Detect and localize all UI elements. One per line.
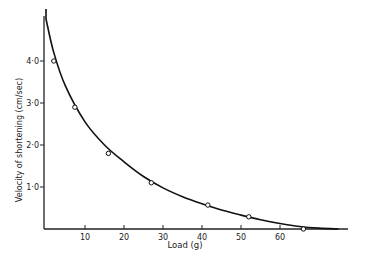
x-tick: 60: [275, 225, 285, 242]
y-tick: 2·0: [26, 141, 44, 150]
y-ticks: 1·02·03·04·0: [26, 57, 44, 192]
x-tick-label: 10: [80, 233, 90, 242]
data-point: [73, 105, 77, 109]
data-point: [149, 181, 153, 185]
chart: 102030405060 1·02·03·04·0 Load (g) Veloc…: [0, 0, 369, 265]
x-tick: 10: [80, 225, 90, 242]
data-point: [52, 59, 56, 63]
x-axis-label: Load (g): [167, 240, 202, 250]
data-point: [247, 215, 251, 219]
x-tick: 20: [119, 225, 129, 242]
y-tick: 3·0: [26, 99, 44, 108]
y-tick: 1·0: [26, 183, 44, 192]
x-tick-label: 20: [119, 233, 129, 242]
data-point: [301, 227, 305, 231]
axes: [44, 16, 348, 229]
x-tick-label: 50: [236, 233, 246, 242]
y-tick-label: 1·0: [26, 183, 39, 192]
data-points: [52, 59, 306, 231]
data-point: [206, 203, 210, 207]
y-axis-label: Velocity of shortening (cm/sec): [15, 78, 24, 202]
y-tick: 4·0: [26, 57, 44, 66]
data-point: [106, 151, 110, 155]
y-tick-label: 3·0: [26, 99, 39, 108]
y-tick-label: 2·0: [26, 141, 39, 150]
x-tick: 50: [236, 225, 246, 242]
x-tick-label: 60: [275, 233, 285, 242]
fitted-curve: [46, 9, 339, 229]
y-tick-label: 4·0: [26, 57, 39, 66]
